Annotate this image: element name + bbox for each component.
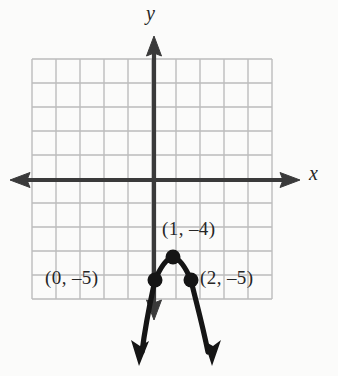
point-0-minus5 <box>148 273 163 288</box>
point-2-minus5 <box>184 273 199 288</box>
y-axis-up-arrowhead <box>147 36 162 56</box>
point-label-1-minus4: (1, ‒4) <box>162 218 215 240</box>
x-axis-right-arrowhead <box>280 173 300 188</box>
x-axis-left-arrowhead <box>10 173 30 188</box>
x-axis-label: x <box>309 162 318 185</box>
point-1-minus4 <box>166 250 181 265</box>
point-label-0-minus5: (0, ‒5) <box>45 267 98 289</box>
y-axis-label: y <box>146 2 155 25</box>
point-label-2-minus5: (2, ‒5) <box>200 267 253 289</box>
coordinate-plane-figure <box>0 0 338 376</box>
left-branch-arrowhead <box>131 340 149 366</box>
